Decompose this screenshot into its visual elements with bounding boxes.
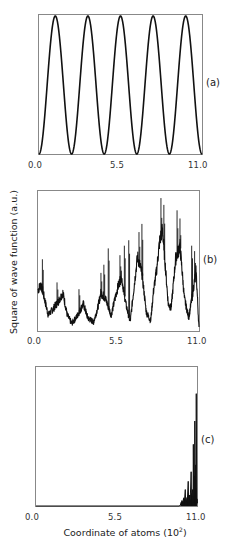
- panel-c: [35, 366, 198, 507]
- x-axis-label-close: ): [183, 527, 187, 538]
- panel-c-xtick-0: 0.0: [25, 512, 39, 522]
- x-axis-label: Coordinate of atoms (102): [40, 526, 210, 538]
- panel-b-label: (b): [203, 254, 217, 265]
- panel-a-xtick-1: 5.5: [110, 160, 124, 170]
- wavefunction-a-line: [39, 16, 202, 154]
- panel-b-xtick-1: 5.5: [109, 336, 123, 346]
- panel-c-plot: [35, 366, 198, 507]
- wavefunction-b-line: [38, 224, 199, 327]
- panel-c-xtick-1: 5.5: [108, 512, 122, 522]
- panel-a-xtick-2: 11.0: [188, 160, 208, 170]
- wavefunction-b-spikes: [42, 198, 195, 317]
- panel-c-xtick-2: 11.0: [186, 512, 206, 522]
- panel-a-label: (a): [206, 77, 220, 88]
- y-axis-label: Square of wave function (a.u.): [8, 190, 19, 334]
- panel-a-plot: [38, 14, 203, 155]
- wavefunction-c-line: [36, 394, 197, 506]
- panel-b-xtick-2: 11.0: [187, 336, 207, 346]
- panel-b-xtick-0: 0.0: [27, 336, 41, 346]
- plot-frame: [36, 367, 198, 507]
- panel-b-plot: [37, 190, 200, 332]
- panel-b: [37, 190, 200, 332]
- panel-c-label: (c): [201, 434, 214, 445]
- panel-a-xtick-0: 0.0: [28, 160, 42, 170]
- x-axis-label-text: Coordinate of atoms (10: [63, 527, 179, 538]
- panel-a: [38, 14, 203, 155]
